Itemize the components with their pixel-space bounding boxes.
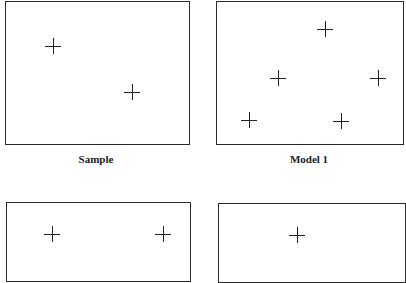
- cross-marker-icon: [155, 226, 171, 242]
- bottom-left-panel: [6, 202, 191, 282]
- sample-panel: [5, 1, 190, 145]
- cross-marker-icon: [45, 38, 61, 54]
- bottom-right-panel: [218, 203, 406, 283]
- sample-label: Sample: [36, 153, 156, 165]
- cross-marker-icon: [124, 84, 140, 100]
- cross-marker-icon: [289, 227, 305, 243]
- cross-marker-icon: [44, 226, 60, 242]
- cross-marker-icon: [317, 21, 333, 37]
- cross-marker-icon: [370, 70, 386, 86]
- cross-marker-icon: [241, 112, 257, 128]
- model-1-label: Model 1: [249, 153, 369, 165]
- cross-marker-icon: [333, 113, 349, 129]
- cross-marker-icon: [270, 70, 286, 86]
